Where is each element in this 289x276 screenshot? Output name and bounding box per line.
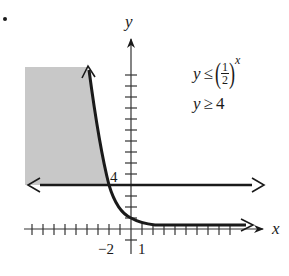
tick-label-x-neg2: −2 bbox=[98, 241, 114, 257]
ineq1-operator: ≤ bbox=[204, 65, 213, 82]
legend-inequality-1: y ≤ ( 1 2 ) x bbox=[193, 58, 240, 88]
inequality-legend: y ≤ ( 1 2 ) x y ≥ 4 bbox=[193, 58, 240, 118]
y-axis-label: y bbox=[123, 12, 133, 31]
ineq2-operator: ≥ bbox=[204, 95, 213, 112]
x-axis-label: x bbox=[271, 219, 280, 238]
problem-bullet bbox=[3, 17, 7, 21]
ineq1-denominator: 2 bbox=[222, 74, 228, 86]
ineq2-lhs: y bbox=[193, 95, 201, 112]
ineq2-rhs: 4 bbox=[216, 95, 225, 112]
ineq1-exponent: x bbox=[235, 54, 240, 66]
tick-label-x-1: 1 bbox=[138, 241, 146, 257]
arrowhead-right-icon bbox=[252, 178, 264, 192]
graph-figure: y x −2 1 4 y ≤ ( 1 2 ) x y ≥ 4 bbox=[0, 0, 289, 276]
ineq1-fraction: 1 2 bbox=[221, 61, 229, 86]
ineq1-numerator: 1 bbox=[221, 61, 229, 74]
ineq1-lhs: y bbox=[193, 65, 201, 82]
ineq1-open-paren: ( bbox=[215, 58, 221, 88]
tick-label-y-4: 4 bbox=[110, 169, 118, 185]
ineq1-close-paren: ) bbox=[229, 58, 235, 88]
legend-inequality-2: y ≥ 4 bbox=[193, 88, 240, 118]
